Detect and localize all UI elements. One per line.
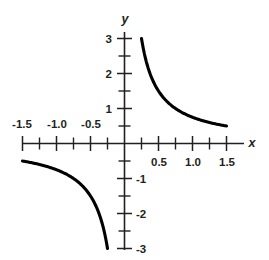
y-tick-label-3: 3 bbox=[106, 33, 112, 45]
y-axis-label: y bbox=[121, 12, 130, 26]
x-tick-label--0.5: -0.5 bbox=[81, 118, 101, 130]
x-axis-label: x bbox=[248, 136, 257, 150]
x-tick-label-1.0: 1.0 bbox=[185, 156, 201, 168]
x-tick-label--1.0: -1.0 bbox=[47, 118, 67, 130]
graph-canvas: y x -1.5 -1.0 -0.5 0.5 1.0 1.5 3 2 1 -1 … bbox=[0, 0, 269, 260]
y-tick-label--2: -2 bbox=[136, 208, 146, 220]
axes-group bbox=[22, 32, 244, 250]
curve-upper-right-branch bbox=[142, 39, 227, 127]
y-tick-label-1: 1 bbox=[106, 103, 113, 115]
x-tick-label-0.5: 0.5 bbox=[151, 156, 168, 168]
x-tick-label-1.5: 1.5 bbox=[219, 156, 236, 168]
curve-lower-left-branch bbox=[23, 161, 108, 249]
y-tick-label--3: -3 bbox=[136, 243, 146, 255]
y-tick-label--1: -1 bbox=[136, 173, 147, 185]
hyperbola-graph-figure: y x -1.5 -1.0 -0.5 0.5 1.0 1.5 3 2 1 -1 … bbox=[0, 0, 269, 260]
y-tick-label-2: 2 bbox=[106, 68, 112, 80]
x-tick-label--1.5: -1.5 bbox=[12, 118, 32, 130]
